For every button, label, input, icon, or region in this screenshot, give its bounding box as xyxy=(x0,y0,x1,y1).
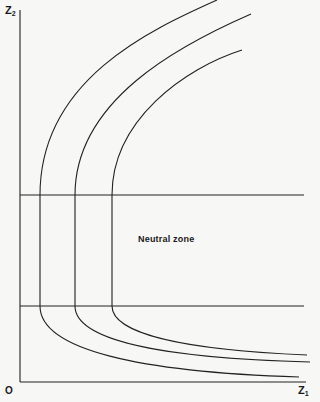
diagram-canvas xyxy=(0,0,320,402)
neutral-zone-label: Neutral zone xyxy=(138,234,194,244)
x-axis-label-main: Z xyxy=(298,384,305,396)
origin-label: O xyxy=(5,385,13,396)
y-axis-label: Z2 xyxy=(5,4,16,17)
x-axis-label-subscript: 1 xyxy=(305,390,309,397)
x-axis-label: Z1 xyxy=(298,384,309,397)
y-axis-label-main: Z xyxy=(5,4,12,16)
y-axis-label-subscript: 2 xyxy=(12,10,16,17)
indifference-curve-inner xyxy=(112,50,307,355)
indifference-curve-middle xyxy=(75,14,310,362)
